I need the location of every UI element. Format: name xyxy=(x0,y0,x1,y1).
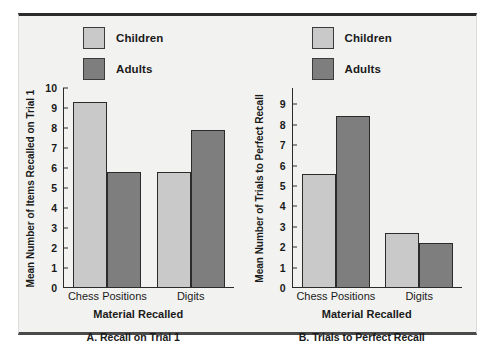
bar-adults-digits xyxy=(191,130,225,288)
legend-b: Children Adults xyxy=(312,27,392,80)
chart-panel-b: Children Adults Mean Number of Trials to… xyxy=(248,16,477,332)
bar-adults-chess-positions xyxy=(107,172,141,288)
panel-container: Children Adults Mean Number of Items Rec… xyxy=(19,16,476,332)
legend-swatch-adults-icon xyxy=(83,58,105,80)
y-axis-label-text-b: Mean Number of Trials to Perfect Recall xyxy=(254,94,265,282)
y-tick-label: 3 xyxy=(51,223,57,234)
legend-item-adults: Adults xyxy=(312,58,392,80)
x-axis-categories-b: Chess PositionsDigits xyxy=(293,290,463,306)
y-tick-label: 0 xyxy=(51,283,57,294)
y-tick-label: 6 xyxy=(51,163,57,174)
y-tick-label: 7 xyxy=(280,140,286,151)
x-category-label: Digits xyxy=(177,290,205,302)
legend-swatch-adults-icon xyxy=(312,58,334,80)
y-tick-label: 0 xyxy=(280,283,286,294)
bar-adults-digits xyxy=(419,243,453,288)
y-tick-label: 5 xyxy=(280,181,286,192)
bar-adults-chess-positions xyxy=(336,116,370,288)
x-axis-categories-a: Chess PositionsDigits xyxy=(64,290,234,306)
legend-swatch-children-icon xyxy=(312,27,334,49)
y-tick-label: 8 xyxy=(280,119,286,130)
legend-a: Children Adults xyxy=(83,27,163,80)
y-tick-label: 3 xyxy=(280,222,286,233)
legend-label-adults: Adults xyxy=(116,63,152,75)
y-tick-label: 1 xyxy=(51,263,57,274)
y-tick-label: 4 xyxy=(51,203,57,214)
bar-children-chess-positions xyxy=(302,174,336,288)
x-axis-label-b: Material Recalled xyxy=(272,308,463,320)
chart-panel-a: Children Adults Mean Number of Items Rec… xyxy=(19,16,248,332)
y-axis-label-text-a: Mean Number of Items Recalled on Trial 1 xyxy=(26,89,37,287)
legend-item-children: Children xyxy=(83,27,163,49)
y-axis-ticks-b: 0123456789 xyxy=(272,88,292,288)
legend-label-children: Children xyxy=(345,32,392,44)
panel-caption-b: B. Trials to Perfect Recall xyxy=(248,331,477,343)
x-category-label: Chess Positions xyxy=(296,290,375,302)
plot-area-b: Mean Number of Trials to Perfect Recall … xyxy=(248,88,477,288)
legend-label-children: Children xyxy=(116,32,163,44)
figure-frame: Children Adults Mean Number of Items Rec… xyxy=(18,13,477,335)
bar-children-digits xyxy=(157,172,191,288)
bar-group-a xyxy=(64,88,234,288)
y-tick-label: 9 xyxy=(280,99,286,110)
y-tick-label: 4 xyxy=(280,201,286,212)
legend-swatch-children-icon xyxy=(83,27,105,49)
y-tick-label: 5 xyxy=(51,183,57,194)
legend-label-adults: Adults xyxy=(345,63,381,75)
x-category-label: Chess Positions xyxy=(68,290,147,302)
y-tick-label: 2 xyxy=(280,242,286,253)
y-tick-label: 7 xyxy=(51,143,57,154)
x-axis-label-a: Material Recalled xyxy=(43,308,234,320)
y-axis-label-a: Mean Number of Items Recalled on Trial 1 xyxy=(23,88,39,288)
y-axis-label-b: Mean Number of Trials to Perfect Recall xyxy=(252,88,268,288)
y-tick-label: 8 xyxy=(51,123,57,134)
bar-children-chess-positions xyxy=(73,102,107,288)
y-tick-label: 9 xyxy=(51,103,57,114)
legend-item-adults: Adults xyxy=(83,58,163,80)
panel-caption-a: A. Recall on Trial 1 xyxy=(19,331,248,343)
y-tick-label: 1 xyxy=(280,262,286,273)
x-category-label: Digits xyxy=(405,290,433,302)
plot-area-a: Mean Number of Items Recalled on Trial 1… xyxy=(19,88,248,288)
axis-area-b: 0123456789 Chess PositionsDigits xyxy=(272,88,463,288)
legend-item-children: Children xyxy=(312,27,392,49)
y-tick-label: 6 xyxy=(280,160,286,171)
bar-children-digits xyxy=(385,233,419,288)
y-tick-label: 2 xyxy=(51,243,57,254)
axis-area-a: 012345678910 Chess PositionsDigits xyxy=(43,88,234,288)
y-tick-label: 10 xyxy=(45,83,57,94)
bar-group-b xyxy=(293,88,463,288)
y-axis-ticks-a: 012345678910 xyxy=(43,88,63,288)
